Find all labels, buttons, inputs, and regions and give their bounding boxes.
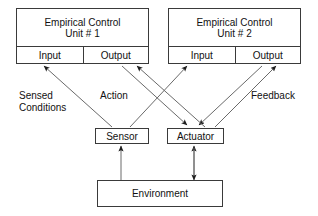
unit-2-title: Empirical Control Unit # 2 bbox=[169, 9, 300, 46]
sensor-node[interactable]: Sensor bbox=[95, 128, 149, 144]
edge-unit1-output-to-actuator bbox=[122, 66, 187, 125]
environment-node[interactable]: Environment bbox=[97, 180, 223, 207]
unit-1-ports: Input Output bbox=[17, 46, 148, 63]
unit-1-input-port[interactable]: Input bbox=[17, 47, 83, 63]
empirical-control-unit-2[interactable]: Empirical Control Unit # 2 Input Output bbox=[168, 8, 301, 64]
unit-2-title-line1: Empirical Control bbox=[196, 17, 272, 29]
actuator-node[interactable]: Actuator bbox=[167, 128, 224, 144]
label-sensed-conditions: Sensed Conditions bbox=[19, 90, 66, 114]
unit-2-output-port[interactable]: Output bbox=[235, 47, 301, 63]
unit-1-title: Empirical Control Unit # 1 bbox=[17, 9, 148, 46]
label-sensed-line1: Sensed bbox=[19, 90, 66, 102]
label-sensed-line2: Conditions bbox=[19, 102, 66, 114]
edge-actuator-to-unit1-output bbox=[137, 66, 205, 127]
label-action: Action bbox=[100, 90, 128, 102]
unit-2-title-line2: Unit # 2 bbox=[217, 28, 251, 40]
unit-1-output-port[interactable]: Output bbox=[83, 47, 149, 63]
unit-2-input-port[interactable]: Input bbox=[169, 47, 235, 63]
unit-1-title-line1: Empirical Control bbox=[44, 17, 120, 29]
empirical-control-unit-1[interactable]: Empirical Control Unit # 1 Input Output bbox=[16, 8, 149, 64]
unit-1-title-line2: Unit # 1 bbox=[65, 28, 99, 40]
diagram-canvas: Empirical Control Unit # 1 Input Output … bbox=[0, 0, 318, 216]
label-feedback: Feedback bbox=[251, 90, 295, 102]
unit-2-ports: Input Output bbox=[169, 46, 300, 63]
